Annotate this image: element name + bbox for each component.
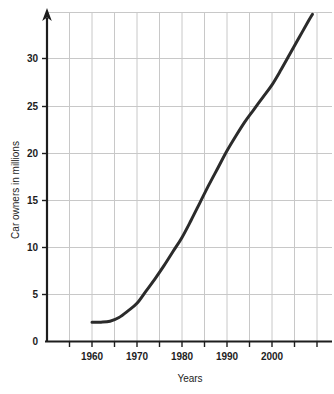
x-tick-label-1990: 1990 — [216, 351, 239, 362]
y-tick-label-5: 5 — [32, 289, 38, 300]
y-tick-label-15: 15 — [27, 195, 39, 206]
y-tick-label-10: 10 — [27, 242, 39, 253]
y-tick-label-30: 30 — [27, 53, 39, 64]
y-axis-title: Car owners in millions — [10, 141, 21, 239]
x-tick-label-1960: 1960 — [81, 351, 104, 362]
y-tick-label-25: 25 — [27, 101, 39, 112]
x-tick-label-1980: 1980 — [171, 351, 194, 362]
chart-canvas: 0 5 10 15 20 25 30 1960 1970 1980 1990 2… — [0, 0, 334, 394]
x-tick-label-2000: 2000 — [261, 351, 284, 362]
y-tick-label-0: 0 — [32, 336, 38, 347]
y-tick-label-20: 20 — [27, 148, 39, 159]
line-chart: 0 5 10 15 20 25 30 1960 1970 1980 1990 2… — [0, 0, 334, 394]
chart-background — [0, 0, 334, 394]
x-axis-title: Years — [177, 373, 202, 384]
x-tick-label-1970: 1970 — [126, 351, 149, 362]
